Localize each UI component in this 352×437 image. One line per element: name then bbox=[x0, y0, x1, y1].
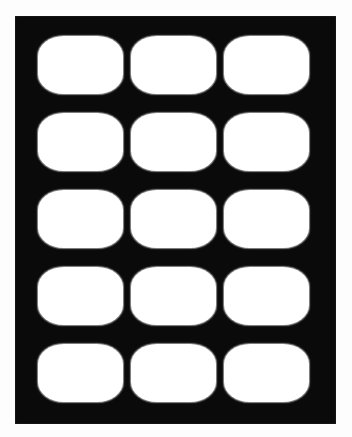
grid-cell bbox=[131, 190, 216, 248]
grid-cell bbox=[224, 267, 309, 325]
grid-cell bbox=[38, 190, 123, 248]
grid-cell bbox=[131, 267, 216, 325]
grid-cell bbox=[38, 344, 123, 402]
grid-cell bbox=[131, 344, 216, 402]
grid-cell bbox=[38, 113, 123, 171]
image-canvas bbox=[0, 0, 352, 437]
grid-cell bbox=[131, 113, 216, 171]
black-mount-panel bbox=[15, 16, 336, 424]
grid-cell bbox=[224, 36, 309, 94]
grid-cell bbox=[224, 190, 309, 248]
aperture-grid bbox=[38, 36, 309, 402]
grid-cell bbox=[224, 113, 309, 171]
grid-cell bbox=[224, 344, 309, 402]
grid-cell bbox=[38, 267, 123, 325]
grid-cell bbox=[38, 36, 123, 94]
grid-cell bbox=[131, 36, 216, 94]
